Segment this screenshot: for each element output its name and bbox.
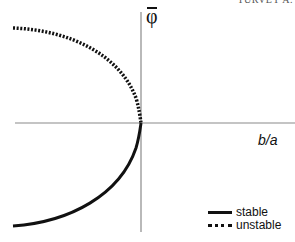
stable-branch: [13, 123, 141, 226]
solid-line-swatch-icon: [208, 211, 232, 214]
legend-item-unstable: unstable: [208, 219, 281, 232]
unstable-branch: [13, 28, 141, 123]
dotted-line-swatch-icon: [208, 224, 232, 227]
overbar: [147, 7, 157, 9]
legend: stable unstable: [208, 206, 281, 232]
x-axis-label: b/a: [258, 132, 277, 148]
legend-label: unstable: [236, 219, 281, 232]
y-axis-label: φ: [146, 6, 158, 26]
